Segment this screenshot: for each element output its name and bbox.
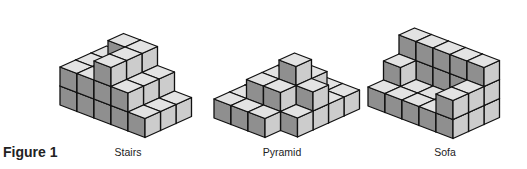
cube-structure-sofa (368, 28, 500, 139)
shape-label-pyramid: Pyramid (263, 146, 302, 158)
cube-structure-stairs (60, 34, 192, 138)
shape-label-stairs: Stairs (115, 146, 142, 158)
cube-figures-canvas (0, 0, 527, 169)
shape-label-sofa: Sofa (434, 146, 456, 158)
figure-label: Figure 1 (3, 144, 57, 160)
cube-structure-pyramid (214, 53, 360, 138)
